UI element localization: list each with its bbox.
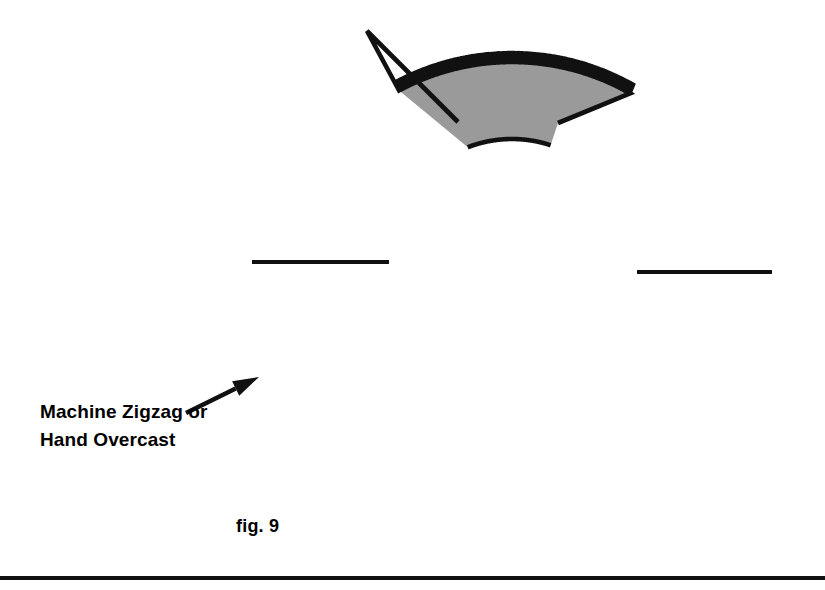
figure-caption: fig. 9 xyxy=(236,516,279,537)
stitch-annotation-line-1: Machine Zigzag or xyxy=(40,398,207,426)
stitch-annotation-label: Machine Zigzag or Hand Overcast xyxy=(40,398,207,454)
figure-illustration xyxy=(0,0,825,590)
stitch-annotation-line-2: Hand Overcast xyxy=(40,426,207,454)
bottom-divider-rule xyxy=(0,576,825,580)
